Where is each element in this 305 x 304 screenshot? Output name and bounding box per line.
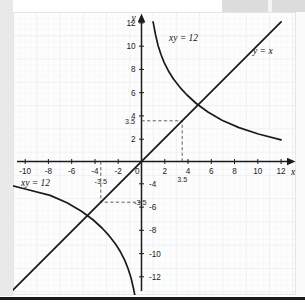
x-tick-label: 2: [163, 167, 168, 176]
x-axis-label: x: [290, 167, 296, 177]
hyperbola-lower-label: xy = 12: [20, 178, 50, 188]
page-canvas: -12 -10 -8 -6 -4 -2 0 2 4 6 8 10 12 12 1…: [0, 0, 305, 304]
line-label: y = x: [252, 46, 273, 56]
x-tick-label: 6: [209, 167, 214, 176]
x-tick-label: 12: [277, 167, 287, 176]
y-tick-label: -10: [149, 250, 161, 259]
y-tick-label: -12: [149, 273, 161, 282]
y-tick-label: 6: [131, 89, 136, 98]
y-axis-label: y: [130, 13, 136, 23]
x-value-label-negative: -3.5: [95, 177, 107, 186]
x-tick-label: -10: [19, 167, 31, 176]
hyperbola-upper-label: xy = 12: [168, 33, 198, 43]
origin-label: 0: [135, 167, 140, 176]
page-right-edge-strip: [296, 12, 305, 296]
x-tick-label: 10: [253, 167, 263, 176]
x-value-label-positive: 3.5: [177, 175, 187, 184]
page-top-gray-band-divider: [268, 0, 272, 12]
y-value-label-negative: -3.5: [134, 198, 146, 207]
x-tick-label: -8: [45, 167, 53, 176]
page-top-gray-band: [222, 0, 305, 12]
x-tick-label: -2: [115, 167, 123, 176]
y-tick-label: 10: [126, 42, 136, 51]
coordinate-plane: -12 -10 -8 -6 -4 -2 0 2 4 6 8 10 12 12 1…: [13, 12, 296, 295]
x-tick-label: -6: [68, 167, 76, 176]
y-tick-label: -4: [149, 180, 157, 189]
y-tick-label: -6: [149, 203, 157, 212]
y-value-label-positive: 3.5: [125, 117, 135, 126]
x-tick-label: -4: [91, 167, 99, 176]
y-tick-label: -8: [149, 226, 157, 235]
page-left-margin-strip: [0, 0, 13, 296]
x-tick-label: 8: [232, 167, 237, 176]
y-tick-label: 2: [131, 135, 136, 144]
page-bottom-edge: [0, 300, 305, 304]
graph-figure: -12 -10 -8 -6 -4 -2 0 2 4 6 8 10 12 12 1…: [13, 12, 296, 295]
y-tick-label: 8: [131, 65, 136, 74]
